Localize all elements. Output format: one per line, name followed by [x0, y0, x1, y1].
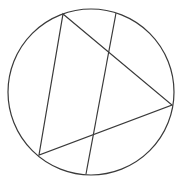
geometry-diagram	[0, 0, 183, 182]
